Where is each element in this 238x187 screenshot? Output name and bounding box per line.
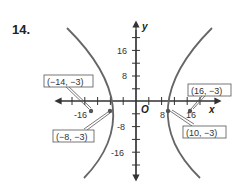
y-tick-label-neg16: -16 [111,148,124,158]
hyperbola-graph: (−14, −3) (−8, −3) (16, −3) (10, −3) -16… [0,0,238,187]
point-vertex-right [166,109,170,113]
label-focus-left: (−14, −3) [47,77,84,87]
x-axis-label: x [208,104,215,115]
x-tick-label-neg16: -16 [74,110,87,120]
label-vertex-right: (10, −3) [186,128,217,138]
y-tick-label-16: 16 [117,46,127,56]
x-tick-label-8: 8 [160,110,165,120]
x-tick-label-16: 16 [186,110,196,120]
point-focus-left [89,109,93,113]
y-tick-label-neg8: -8 [117,122,125,132]
hyperbola-left-branch [67,28,113,178]
y-axis-label: y [141,21,148,32]
point-vertex-left [108,109,112,113]
label-vertex-left: (−8, −3) [56,132,88,142]
y-tick-label-8: 8 [122,71,127,81]
label-focus-right: (16, −3) [191,86,222,96]
origin-label: O [141,104,149,115]
